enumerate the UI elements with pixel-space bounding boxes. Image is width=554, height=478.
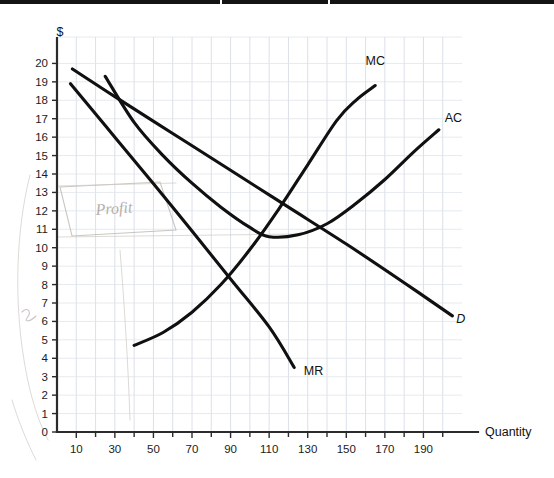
pencil-profit-label: Profit xyxy=(94,198,133,219)
x-axis-tick-label: 170 xyxy=(375,443,394,455)
x-axis-tick-label: 130 xyxy=(298,443,317,455)
pencil-mark-percent xyxy=(22,310,36,321)
x-axis-tick-label: 50 xyxy=(147,443,160,455)
curve-label-mr: MR xyxy=(304,364,323,378)
x-axis-tick-label: 90 xyxy=(224,443,237,455)
y-axis-tick-label: 8 xyxy=(42,279,48,291)
y-axis-tick-label: 19 xyxy=(35,76,48,88)
y-axis-tick-label: 12 xyxy=(35,205,48,217)
y-axis-tick-label: 3 xyxy=(42,371,48,383)
horizontal-gridlines xyxy=(57,37,462,414)
y-axis-tick-label: 11 xyxy=(36,223,48,235)
x-axis-tick-label: 110 xyxy=(260,443,278,455)
x-axis-tick-label: 190 xyxy=(414,443,433,455)
y-axis-tick-label: 17 xyxy=(35,113,48,125)
y-axis-tick-label: 0 xyxy=(42,426,48,438)
y-axis-tick-label: 10 xyxy=(35,242,48,254)
y-axis-tick-label: 15 xyxy=(35,150,48,162)
y-axis-ticks: 01234567891011121314151617181920 xyxy=(35,57,57,438)
x-axis-tick-label: 70 xyxy=(186,443,199,455)
pencil-arc-lower-left xyxy=(12,400,36,460)
pencil-vertical-faint xyxy=(120,250,130,420)
curves-layer xyxy=(71,69,453,368)
y-axis-tick-label: 6 xyxy=(42,315,48,327)
y-axis-tick-label: 2 xyxy=(42,389,48,401)
pencil-line-14 xyxy=(58,183,176,186)
y-axis-title: $ xyxy=(57,25,64,39)
y-axis-tick-label: 16 xyxy=(35,131,48,143)
curve-label-ac: AC xyxy=(445,111,462,125)
y-axis-tick-label: 18 xyxy=(35,94,48,106)
y-axis-tick-label: 7 xyxy=(42,297,48,309)
y-axis-tick-label: 4 xyxy=(42,352,49,364)
x-axis-tick-label: 30 xyxy=(108,443,121,455)
x-axis-title: Quantity xyxy=(485,425,532,439)
pencil-annotation-layer: Profit xyxy=(12,175,300,460)
y-axis-tick-label: 9 xyxy=(42,260,48,272)
curve-mr xyxy=(71,84,295,368)
curve-label-mc: MC xyxy=(366,54,385,68)
x-axis-tick-label: 10 xyxy=(70,443,83,455)
y-axis-tick-label: 14 xyxy=(35,168,48,180)
economics-chart: Profit $ Quantity 0123456789101112131415… xyxy=(0,0,554,478)
y-axis-tick-label: 5 xyxy=(42,334,48,346)
chart-canvas: Profit $ Quantity 0123456789101112131415… xyxy=(0,0,554,478)
x-axis-ticks: 1030507090110130150170190 xyxy=(70,432,443,455)
y-axis-tick-label: 20 xyxy=(35,57,48,69)
curve-label-d: D xyxy=(456,312,465,326)
x-axis-tick-label: 150 xyxy=(337,443,356,455)
y-axis-tick-label: 13 xyxy=(35,186,48,198)
y-axis-tick-label: 1 xyxy=(42,408,48,420)
